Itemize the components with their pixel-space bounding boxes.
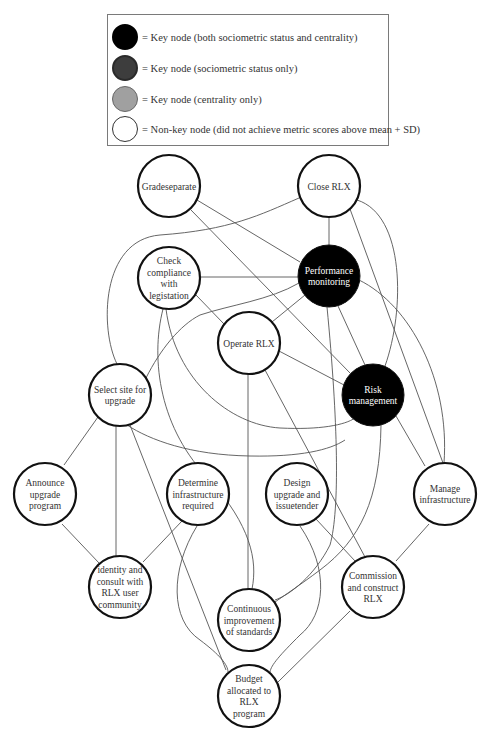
node-label: Performance [305,266,354,276]
node-label: Operate RLX [223,339,275,349]
node-label: Design [284,478,311,488]
edge-gradeseparate-performance [197,200,300,262]
node-commission-construct: Commissionand constructRLX [342,556,404,618]
node-check-compliance: Checkcompliancewithlegistation [138,247,200,309]
edge-performance-risk [338,306,365,365]
node-label: infrastructure [172,490,223,500]
legend-label: = Key node (centrality only) [142,94,262,105]
edge-manage-commission [396,524,429,561]
node-announce-upgrade: Announceupgradeprogram [14,463,76,525]
node-circle [89,364,151,426]
node-design-upgrade: Designupgrade andissuetender [266,463,328,525]
node-label: Announce [25,478,64,488]
edge-operate-risk [279,351,344,385]
node-label: consult with [97,577,144,587]
node-label: upgrade and [274,490,321,500]
node-label: community [98,600,142,610]
node-label: program [29,501,62,511]
legend-label: = Non-key node (did not achieve metric s… [142,124,420,135]
node-close-rlx: Close RLX [298,155,360,217]
legend-item-key-centrality: = Key node (centrality only) [112,85,262,113]
node-select-site: Select site forupgrade [89,364,151,426]
node-label: with [161,279,178,289]
white-circle-icon [112,116,138,142]
legend-item-key-both: = Key node (both sociometric status and … [112,23,358,51]
dark-gray-circle-icon [112,55,138,81]
nodes-layer: GradeseparateClose RLXCheckcompliancewit… [14,155,476,727]
node-label: identity and [97,565,142,575]
node-label: issuetender [276,501,320,511]
node-label: program [233,709,266,719]
node-label: legistation [149,291,189,301]
node-determine-infrastructure: Determineinfrastructurerequired [167,463,229,525]
node-label: Manage [430,484,461,494]
node-label: Commission [349,571,397,581]
node-risk-management: Riskmanagement [342,364,404,426]
node-gradeseparate: Gradeseparate [138,155,200,217]
node-label: Gradeseparate [142,182,196,192]
node-label: Select site for [94,385,147,395]
legend-item-key-sociometric: = Key node (sociometric status only) [112,54,298,82]
edge-determine-identity [143,521,182,562]
node-label: and construct [348,583,399,593]
node-identity-consult: identity andconsult withRLX usercommunit… [89,556,151,618]
node-manage-infrastructure: Manageinfrastructure [414,463,476,525]
light-gray-circle-icon [112,86,138,112]
edge-select-budget [130,425,226,670]
node-label: required [182,501,214,511]
node-label: upgrade [30,490,61,500]
node-label: improvement [224,616,275,626]
node-label: RLX user [101,588,139,598]
edge-performance-operate [272,295,305,322]
node-label: compliance [147,268,191,278]
legend: = Key node (both sociometric status and … [107,14,389,146]
node-label: monitoring [308,277,350,287]
node-label: of standards [226,627,272,637]
edge-risk-manage [396,416,425,466]
node-label: Budget [235,674,263,684]
node-circle [298,245,360,307]
node-label: Continuous [227,604,271,614]
node-label: upgrade [105,396,136,406]
node-operate-rlx: Operate RLX [218,312,280,374]
node-budget-allocated: Budgetallocated toRLXprogram [218,665,280,727]
node-circle [414,463,476,525]
node-label: allocated to [227,686,271,696]
node-label: Risk [364,385,382,395]
edge-determine-budget [177,526,228,672]
node-label: Close RLX [307,182,350,192]
legend-label: = Key node (both sociometric status and … [142,32,358,43]
edge-select-announce [64,417,98,465]
legend-label: = Key node (sociometric status only) [142,63,298,74]
node-label: RLX [364,594,383,604]
node-label: RLX [240,697,259,707]
node-label: management [349,396,398,406]
node-circle [342,364,404,426]
node-label: Determine [178,478,218,488]
edge-select-risk [127,425,345,456]
node-label: Check [157,256,182,266]
node-performance-monitoring: Performancemonitoring [298,245,360,307]
node-continuous-improvement: Continuousimprovementof standards [218,589,280,651]
node-label: infrastructure [419,495,470,505]
edge-announce-identity [62,524,99,563]
black-circle-icon [112,24,138,50]
edge-design-commission [316,519,355,561]
legend-item-non-key: = Non-key node (did not achieve metric s… [112,115,420,143]
